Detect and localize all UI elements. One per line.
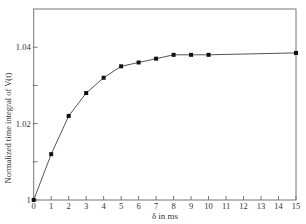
y-tick-label: 1 (26, 195, 30, 205)
y-axis-ticks: 11.021.04 (16, 42, 38, 205)
x-axis-label: δ in ms (152, 211, 179, 221)
x-tick-label: 13 (257, 201, 266, 211)
plot-frame (34, 9, 296, 200)
x-tick-label: 9 (189, 201, 193, 211)
y-tick-label: 1.02 (16, 119, 31, 129)
data-point-marker (119, 64, 123, 68)
x-tick-label: 0 (32, 201, 36, 211)
plot-border (34, 9, 296, 200)
x-tick-label: 2 (67, 201, 71, 211)
x-tick-label: 3 (84, 201, 88, 211)
data-point-marker (67, 114, 71, 118)
x-tick-label: 5 (119, 201, 123, 211)
data-point-marker (137, 60, 141, 64)
data-point-marker (49, 152, 53, 156)
x-tick-label: 7 (154, 201, 158, 211)
x-tick-label: 12 (239, 201, 248, 211)
x-tick-label: 15 (292, 201, 301, 211)
x-tick-label: 8 (171, 201, 175, 211)
data-point-marker (102, 76, 106, 80)
x-axis-ticks: 0123456789101112131415 (32, 196, 301, 211)
data-series (32, 51, 298, 202)
series-line (34, 53, 296, 200)
x-tick-label: 11 (222, 201, 230, 211)
x-tick-label: 14 (274, 201, 283, 211)
data-point-marker (207, 53, 211, 57)
line-chart: 0123456789101112131415 11.021.04 δ in ms… (0, 0, 306, 224)
data-point-marker (172, 53, 176, 57)
data-point-marker (154, 57, 158, 61)
y-tick-label: 1.04 (16, 42, 32, 52)
data-point-marker (189, 53, 193, 57)
data-point-marker (32, 198, 36, 202)
data-point-marker (294, 51, 298, 55)
x-tick-label: 1 (49, 201, 53, 211)
x-tick-label: 10 (204, 201, 213, 211)
x-tick-label: 6 (136, 201, 140, 211)
x-tick-label: 4 (102, 201, 107, 211)
data-point-marker (84, 91, 88, 95)
y-axis-label: Normalized time integral of V(t) (3, 72, 13, 183)
